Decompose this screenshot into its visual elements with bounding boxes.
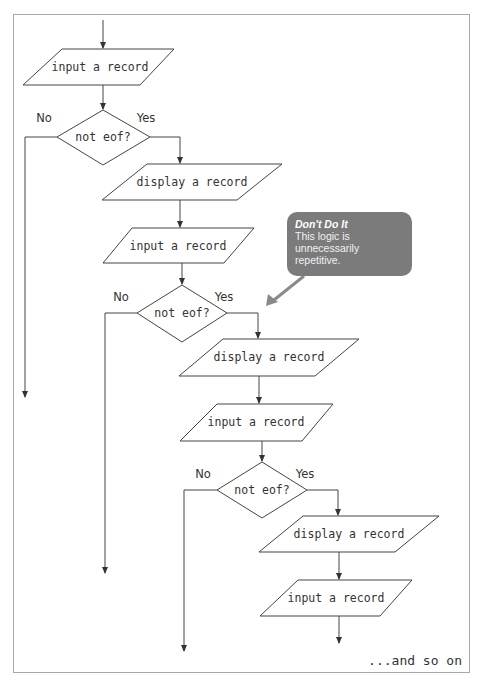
no-branch-line-1 xyxy=(25,137,57,397)
yes-branch-line-3 xyxy=(307,490,338,515)
arrowhead-icon xyxy=(336,637,342,644)
arrowhead-icon xyxy=(259,455,265,462)
decision-label-2: not eof? xyxy=(154,306,209,320)
callout-title: Don't Do It xyxy=(295,218,404,230)
no-branch-line-2 xyxy=(105,313,137,573)
input-label-2: input a record xyxy=(130,239,227,253)
input-label-4: input a record xyxy=(288,591,385,605)
arrowhead-icon xyxy=(102,567,108,574)
yes-label-1: Yes xyxy=(136,111,156,125)
no-label-1: No xyxy=(36,111,52,125)
arrowhead-icon xyxy=(336,573,342,580)
yes-label-2: Yes xyxy=(214,290,234,304)
callout-pointer xyxy=(266,276,304,306)
arrowhead-icon xyxy=(177,221,183,228)
arrowhead-icon xyxy=(256,397,262,404)
yes-label-3: Yes xyxy=(295,467,315,481)
dont-do-it-callout: Don't Do It This logic is unnecessarily … xyxy=(287,212,412,276)
input-label-1: input a record xyxy=(52,60,149,74)
callout-body: This logic is unnecessarily repetitive. xyxy=(295,230,404,266)
arrowhead-icon xyxy=(22,391,28,398)
input-label-3: input a record xyxy=(208,415,305,429)
display-label-2: display a record xyxy=(214,350,325,364)
no-branch-line-3 xyxy=(184,490,217,651)
continuation-note: ...and so on xyxy=(368,653,462,668)
flowchart-svg: input a record not eof? No Yes display a… xyxy=(0,0,484,692)
arrowhead-icon xyxy=(177,157,183,164)
arrowhead-icon xyxy=(255,332,261,339)
decision-label-3: not eof? xyxy=(234,483,289,497)
arrowhead-icon xyxy=(100,42,106,49)
display-label-3: display a record xyxy=(294,527,405,541)
yes-branch-line-1 xyxy=(150,137,180,163)
display-label-1: display a record xyxy=(137,175,248,189)
arrowhead-icon xyxy=(100,103,106,110)
arrowhead-icon xyxy=(335,509,341,516)
no-label-2: No xyxy=(113,290,129,304)
no-label-3: No xyxy=(195,467,211,481)
arrowhead-icon xyxy=(179,278,185,285)
decision-label-1: not eof? xyxy=(75,130,130,144)
yes-branch-line-2 xyxy=(227,313,258,338)
arrowhead-icon xyxy=(181,645,187,652)
flowchart-canvas: input a record not eof? No Yes display a… xyxy=(0,0,484,692)
